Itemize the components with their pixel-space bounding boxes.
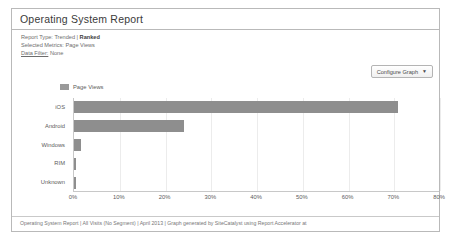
chart-area: Page Views iOSAndroidWindowsRIMUnknown 0… (12, 82, 439, 210)
bar-ios[interactable] (74, 101, 398, 113)
x-axis-labels: 0%10%20%30%40%50%60%70%80% (73, 194, 439, 206)
panel-title-bar: Operating System Report (12, 9, 439, 30)
bar-windows[interactable] (74, 139, 81, 151)
footer-caption: Operating System Report | All Visits (No… (20, 220, 307, 226)
grid-line (440, 98, 441, 191)
x-axis-tick-label: 30% (204, 194, 216, 200)
selected-metrics-line: Selected Metrics: Page Views (21, 41, 100, 49)
y-axis-label-rim: RIM (54, 160, 65, 166)
chart-legend: Page Views (60, 84, 104, 90)
x-axis-tick-label: 0% (69, 194, 77, 200)
bar-rim[interactable] (74, 158, 76, 170)
plot-canvas (73, 98, 439, 192)
configure-graph-label: Configure Graph (377, 69, 418, 75)
x-axis-tick-label: 70% (387, 194, 399, 200)
y-axis-label-android: Android (45, 123, 65, 129)
report-type-line: Report Type: Trended | Ranked (21, 33, 100, 41)
configure-graph-button[interactable]: Configure Graph ▼ (371, 65, 433, 78)
legend-swatch-page-views (60, 84, 69, 90)
selected-metrics-label: Selected Metrics: (21, 42, 64, 48)
data-filter-label[interactable]: Data Filter: (21, 50, 48, 56)
data-filter-value[interactable]: None (50, 50, 63, 56)
y-axis-labels: iOSAndroidWindowsRIMUnknown (12, 98, 69, 192)
data-filter-line: Data Filter: None (21, 49, 100, 57)
x-axis-tick-label: 10% (113, 194, 125, 200)
selected-metrics-value[interactable]: Page Views (65, 42, 94, 48)
bar-unknown[interactable] (74, 177, 76, 189)
report-metadata: Report Type: Trended | Ranked Selected M… (21, 33, 100, 58)
report-type-separator: | (77, 34, 78, 40)
x-axis-tick-label: 80% (433, 194, 445, 200)
y-axis-label-windows: Windows (41, 142, 65, 148)
bar-android[interactable] (74, 120, 184, 132)
report-type-trended-option[interactable]: Trended (54, 34, 75, 40)
y-axis-label-ios: iOS (55, 104, 65, 110)
report-page: Operating System Report Report Type: Tre… (0, 0, 453, 241)
x-axis-tick-label: 40% (250, 194, 262, 200)
legend-label-page-views: Page Views (73, 84, 104, 90)
x-axis-tick-label: 20% (159, 194, 171, 200)
report-type-label: Report Type: (21, 34, 53, 40)
report-type-ranked-option[interactable]: Ranked (80, 34, 100, 40)
operating-system-report-panel: Operating System Report Report Type: Tre… (11, 8, 440, 232)
panel-footer: Operating System Report | All Visits (No… (12, 216, 439, 231)
x-axis-tick-label: 60% (342, 194, 354, 200)
x-axis-tick-label: 50% (296, 194, 308, 200)
page-title: Operating System Report (20, 13, 143, 25)
chevron-down-icon: ▼ (422, 69, 427, 74)
y-axis-label-unknown: Unknown (41, 179, 65, 185)
